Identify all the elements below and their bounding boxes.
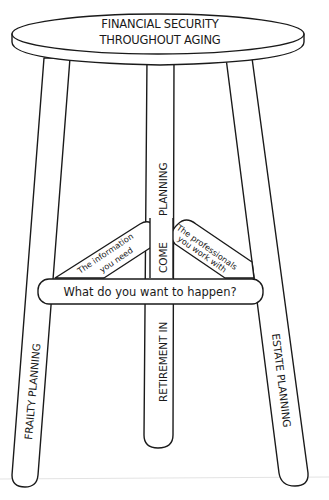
leg-center-label-mid: COME	[157, 242, 169, 273]
seat-title-line1: FINANCIAL SECURITY	[101, 17, 219, 31]
seat: FINANCIAL SECURITY THROUGHOUT AGING	[12, 14, 304, 65]
brace-information: The information you need	[55, 222, 157, 278]
crossbar: What do you want to happen?	[38, 279, 263, 304]
leg-center-label-bottom: RETIREMENT IN	[157, 322, 169, 402]
seat-title-line2: THROUGHOUT AGING	[98, 33, 220, 47]
leg-center-label-top: PLANNING	[157, 162, 169, 216]
leg-frailty-planning: FRAILTY PLANNING	[12, 58, 70, 487]
brace-professionals: The professionals you work with	[172, 220, 254, 278]
crossbar-label: What do you want to happen?	[63, 285, 236, 299]
stool-diagram: FRAILTY PLANNING ESTATE PLANNING The inf…	[0, 0, 329, 500]
